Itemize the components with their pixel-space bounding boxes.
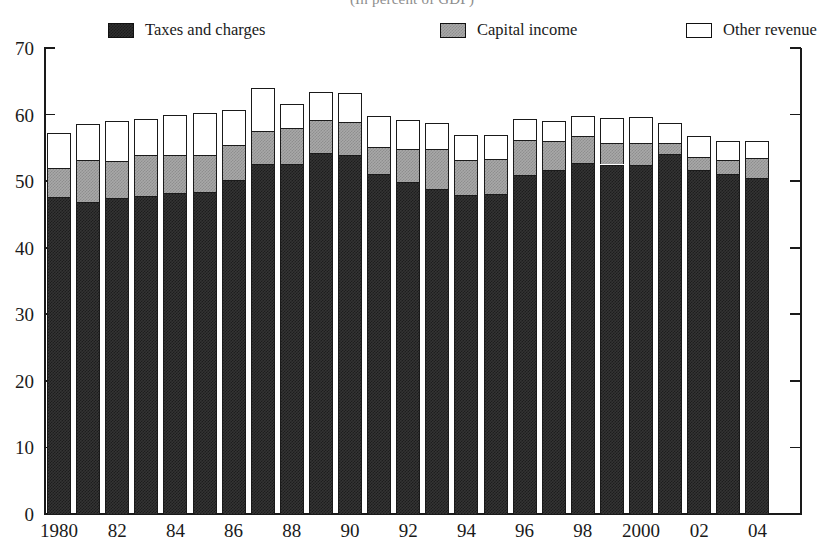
bar-1989[interactable] xyxy=(309,48,333,514)
segment-capital-income xyxy=(571,136,595,163)
y-axis-right xyxy=(800,48,802,515)
segment-taxes-and-charges xyxy=(716,174,740,514)
bar-1991[interactable] xyxy=(367,48,391,514)
bar-1990[interactable] xyxy=(338,48,362,514)
bar-1986[interactable] xyxy=(222,48,246,514)
segment-taxes-and-charges xyxy=(454,195,478,514)
figure-suptitle: (In percent of GDP) xyxy=(0,0,824,8)
bar-1983[interactable] xyxy=(134,48,158,514)
legend-label: Other revenue xyxy=(723,22,817,39)
segment-other-revenue xyxy=(513,119,537,140)
segment-other-revenue xyxy=(425,123,449,149)
y-tick-right xyxy=(790,114,801,116)
x-tick-label: 04 xyxy=(723,521,791,540)
bar-1999[interactable] xyxy=(600,48,624,514)
segment-capital-income xyxy=(745,158,769,179)
segment-other-revenue xyxy=(629,117,653,142)
bar-1984[interactable] xyxy=(163,48,187,514)
y-tick-right xyxy=(790,247,801,249)
segment-other-revenue xyxy=(658,123,682,144)
bar-2001[interactable] xyxy=(658,48,682,514)
segment-capital-income xyxy=(484,159,508,195)
y-tick-label: 60 xyxy=(0,106,34,125)
segment-taxes-and-charges xyxy=(745,178,769,514)
bar-1997[interactable] xyxy=(542,48,566,514)
segment-taxes-and-charges xyxy=(484,194,508,514)
segment-capital-income xyxy=(542,141,566,171)
y-tick-right xyxy=(790,47,801,49)
segment-capital-income xyxy=(367,147,391,174)
y-tick-right xyxy=(790,180,801,182)
segment-capital-income xyxy=(251,131,275,164)
y-tick-right xyxy=(790,380,801,382)
segment-taxes-and-charges xyxy=(513,175,537,514)
segment-taxes-and-charges xyxy=(629,165,653,514)
segment-taxes-and-charges xyxy=(251,164,275,514)
segment-other-revenue xyxy=(193,113,217,156)
segment-taxes-and-charges xyxy=(367,174,391,514)
bar-1980[interactable] xyxy=(47,48,71,514)
segment-capital-income xyxy=(454,160,478,195)
segment-capital-income xyxy=(687,157,711,170)
legend-item-3[interactable]: Other revenue xyxy=(686,18,817,42)
segment-taxes-and-charges xyxy=(47,197,71,514)
segment-capital-income xyxy=(76,160,100,202)
segment-other-revenue xyxy=(105,121,129,161)
bar-2002[interactable] xyxy=(687,48,711,514)
segment-taxes-and-charges xyxy=(280,164,304,514)
segment-taxes-and-charges xyxy=(687,170,711,514)
segment-capital-income xyxy=(193,155,217,192)
segment-capital-income xyxy=(134,155,158,196)
bar-1982[interactable] xyxy=(105,48,129,514)
segment-other-revenue xyxy=(251,88,275,131)
segment-capital-income xyxy=(280,128,304,164)
bar-1985[interactable] xyxy=(193,48,217,514)
bar-1996[interactable] xyxy=(513,48,537,514)
y-axis-left xyxy=(44,48,46,515)
bar-1987[interactable] xyxy=(251,48,275,514)
bar-1988[interactable] xyxy=(280,48,304,514)
bar-2004[interactable] xyxy=(745,48,769,514)
segment-taxes-and-charges xyxy=(542,170,566,514)
segment-taxes-and-charges xyxy=(222,180,246,514)
y-tick-label: 50 xyxy=(0,172,34,191)
y-tick-right xyxy=(790,447,801,449)
segment-capital-income xyxy=(338,122,362,155)
segment-capital-income xyxy=(629,143,653,166)
segment-capital-income xyxy=(105,161,129,198)
bar-1981[interactable] xyxy=(76,48,100,514)
y-tick-label: 10 xyxy=(0,438,34,457)
segment-taxes-and-charges xyxy=(396,182,420,514)
y-tick-label: 40 xyxy=(0,239,34,258)
bar-1993[interactable] xyxy=(425,48,449,514)
segment-other-revenue xyxy=(338,93,362,122)
legend-item-2[interactable]: Capital income xyxy=(440,18,577,42)
legend-item-1[interactable]: Taxes and charges xyxy=(108,18,265,42)
gray-hatch-swatch xyxy=(440,23,466,38)
bar-2003[interactable] xyxy=(716,48,740,514)
segment-capital-income xyxy=(513,140,537,175)
legend-label: Capital income xyxy=(477,22,577,39)
segment-taxes-and-charges xyxy=(193,192,217,514)
segment-other-revenue xyxy=(542,121,566,141)
segment-other-revenue xyxy=(745,141,769,158)
segment-other-revenue xyxy=(222,110,246,145)
segment-other-revenue xyxy=(687,136,711,157)
segment-other-revenue xyxy=(134,119,158,154)
segment-capital-income xyxy=(716,160,740,174)
y-tick-label: 20 xyxy=(0,372,34,391)
bar-1994[interactable] xyxy=(454,48,478,514)
segment-other-revenue xyxy=(280,104,304,128)
segment-taxes-and-charges xyxy=(658,154,682,514)
y-tick-label: 30 xyxy=(0,305,34,324)
bar-1992[interactable] xyxy=(396,48,420,514)
segment-capital-income xyxy=(600,143,624,164)
segment-other-revenue xyxy=(600,118,624,143)
segment-capital-income xyxy=(309,120,333,153)
bar-1995[interactable] xyxy=(484,48,508,514)
bar-2000[interactable] xyxy=(629,48,653,514)
segment-other-revenue xyxy=(47,133,71,168)
bar-1998[interactable] xyxy=(571,48,595,514)
legend-label: Taxes and charges xyxy=(145,22,265,39)
chart-legend: Taxes and chargesCapital incomeOther rev… xyxy=(108,18,708,42)
